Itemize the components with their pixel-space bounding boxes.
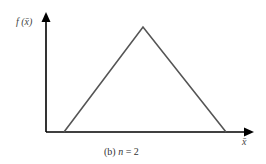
x-axis-label: x̄ bbox=[242, 136, 246, 147]
caption-suffix: = 2 bbox=[123, 146, 139, 157]
density-curve bbox=[64, 27, 226, 132]
y-axis-arrow-icon bbox=[42, 12, 51, 22]
y-axis-label: f (x̄) bbox=[16, 16, 32, 27]
figure-caption: (b) n = 2 bbox=[104, 146, 139, 157]
triangular-distribution-plot bbox=[0, 0, 266, 164]
caption-prefix: (b) bbox=[104, 146, 118, 157]
